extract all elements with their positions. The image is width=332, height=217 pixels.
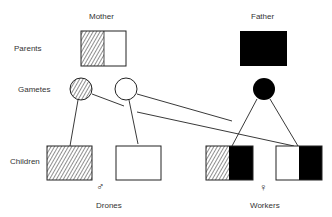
row-label-parents: Parents [14,44,42,53]
connection-lines [70,94,298,146]
row-label-gametes: Gametes [18,85,50,94]
worker-white-black [276,146,322,180]
male-symbol-icon: ♂ [96,180,104,192]
drones-label: Drones [96,201,122,210]
gamete-hatched [70,78,92,100]
mother-white-half [104,31,126,66]
drone-white [116,146,161,180]
father-box [240,31,287,66]
mother-box [81,31,126,66]
inheritance-diagram [0,0,332,217]
mother-hatched-half [81,31,104,66]
gamete-black [253,78,275,100]
female-symbol-icon: ♀ [259,181,267,193]
line-white-gamete-to-worker1-a [137,94,232,121]
line-hatched-gamete-to-worker2-b [137,112,294,146]
line-black-gamete-to-worker2 [270,99,298,146]
father-label: Father [251,12,274,21]
line-cross-to-worker1 [160,118,224,146]
line-white-gamete-to-drone2 [129,100,138,144]
drone-hatched [47,146,92,180]
line-hatched-gamete-to-drone1 [70,100,78,146]
row-label-children: Children [10,157,40,166]
worker-hatched-black [206,146,253,180]
workers-label: Workers [250,201,280,210]
mother-label: Mother [89,12,114,21]
line-black-gamete-to-worker1 [232,99,257,146]
line-stub-hidden [166,110,216,146]
gamete-white [115,78,137,100]
